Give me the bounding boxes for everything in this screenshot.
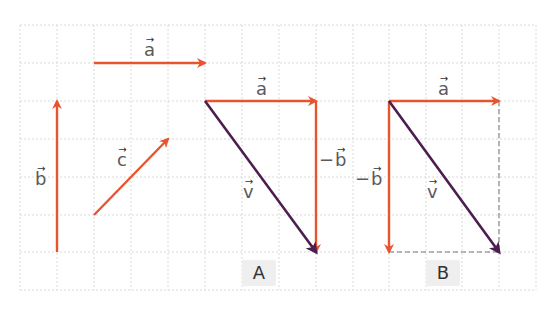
label-neg-b-figB: −→b (355, 170, 383, 188)
vector-v-figA (205, 101, 316, 252)
vector-v-figB (389, 101, 499, 252)
label-c-standalone: →c (116, 151, 127, 169)
panel-label-b: B (426, 260, 460, 286)
vector-arrow-icon: → (118, 145, 125, 155)
vector-arrow-icon: → (258, 74, 265, 84)
vector-arrow-icon: → (37, 164, 44, 174)
label-v-figB: →v (426, 183, 438, 201)
label-neg-b-figA: −→b (319, 151, 347, 169)
label-a-figA: →a (255, 80, 267, 98)
label-a-standalone: →a (143, 41, 155, 59)
label-a-figB: →a (437, 80, 449, 98)
vector-arrow-icon: → (440, 74, 447, 84)
vector-arrow-icon: → (373, 164, 380, 174)
vector-arrow-icon: → (429, 177, 436, 187)
vector-arrow-icon: → (146, 35, 153, 45)
vector-arrow-icon: → (245, 177, 252, 187)
label-b-standalone: →b (34, 170, 46, 188)
label-v-figA: →v (242, 183, 254, 201)
panel-label-a: A (242, 260, 276, 286)
grid (20, 25, 536, 290)
vector-arrow-icon: → (337, 145, 344, 155)
